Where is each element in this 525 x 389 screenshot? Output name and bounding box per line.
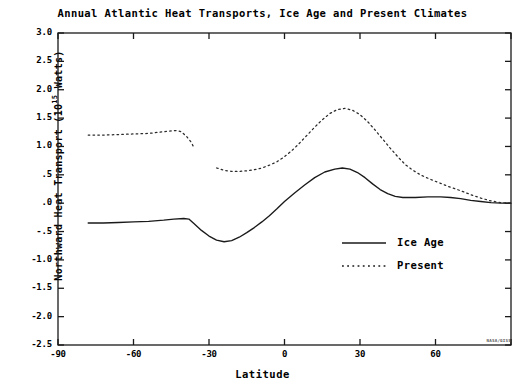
- plot-area: [0, 0, 525, 389]
- data-series-layer: [88, 108, 511, 241]
- legend-label-present: Present: [397, 259, 444, 271]
- series-line-ice-age: [88, 168, 511, 242]
- series-line-present: [88, 131, 194, 148]
- legend-sample-lines: [342, 243, 386, 266]
- legend-label-ice-age: Ice Age: [397, 236, 444, 248]
- axes-frame: [58, 33, 511, 345]
- credit-mark: NASA/GISS: [487, 338, 512, 343]
- axis-tick-marks: [58, 33, 511, 345]
- series-line-present: [217, 108, 511, 203]
- chart-figure: Annual Atlantic Heat Transports, Ice Age…: [0, 0, 525, 389]
